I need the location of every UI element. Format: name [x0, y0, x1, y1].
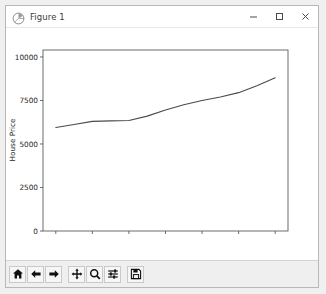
line-chart: 025005000750010000 201220132014201520162… — [6, 28, 318, 234]
figure-window: Figure 1 025005000750010000 201220132014… — [5, 5, 319, 288]
back-button[interactable] — [27, 266, 44, 283]
window-title: Figure 1 — [30, 12, 240, 22]
maximize-button[interactable] — [266, 6, 292, 27]
configure-subplots-button[interactable] — [104, 266, 121, 283]
svg-text:2500: 2500 — [19, 183, 38, 192]
axes-frame — [43, 50, 288, 231]
figure-canvas[interactable]: 025005000750010000 201220132014201520162… — [6, 28, 318, 260]
y-axis-ticks: 025005000750010000 — [15, 53, 43, 234]
home-button[interactable] — [9, 266, 26, 283]
forward-button[interactable] — [45, 266, 62, 283]
svg-text:5000: 5000 — [19, 140, 38, 149]
close-button[interactable] — [292, 6, 318, 27]
zoom-button[interactable] — [86, 266, 103, 283]
y-axis-label: House Price — [8, 118, 17, 161]
save-button[interactable] — [127, 266, 144, 283]
navigation-toolbar — [6, 260, 318, 287]
svg-text:7500: 7500 — [19, 96, 38, 105]
minimize-button[interactable] — [240, 6, 266, 27]
title-bar: Figure 1 — [6, 6, 318, 28]
pan-button[interactable] — [68, 266, 85, 283]
svg-text:0: 0 — [33, 227, 38, 234]
svg-text:10000: 10000 — [15, 53, 39, 62]
matplotlib-icon — [12, 10, 25, 23]
